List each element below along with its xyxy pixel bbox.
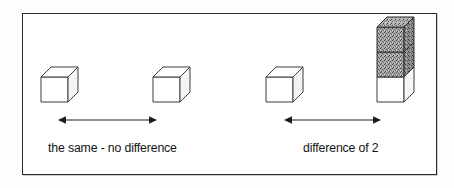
caption-left: the same - no difference <box>48 141 177 155</box>
figure-root: the same - no difference difference of 2 <box>0 0 454 188</box>
caption-right: difference of 2 <box>303 141 378 155</box>
